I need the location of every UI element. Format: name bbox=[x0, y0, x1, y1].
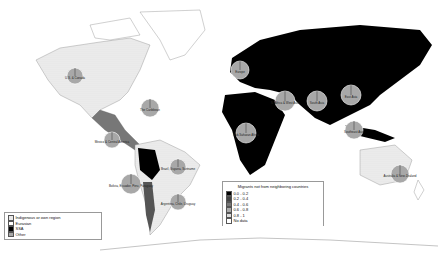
pie-label: Australia & New Zealand bbox=[383, 175, 416, 178]
legend-item: No data bbox=[226, 218, 320, 224]
legend-composition: Indigenous or own region Eurasian SSA Ot… bbox=[4, 212, 102, 240]
pie-label: N. Africa & West Asia bbox=[271, 102, 299, 105]
legend-item: Other bbox=[8, 232, 98, 238]
pie-label: Southeast Asia bbox=[344, 131, 364, 134]
pie-label: Sub-Saharan Africa bbox=[233, 134, 259, 137]
pie-label: The Caribbean bbox=[140, 109, 160, 112]
pie-label: Europe bbox=[235, 71, 245, 74]
pie-label: South Asia bbox=[310, 102, 324, 105]
legend-title: Migrants not from neighboring countries bbox=[226, 184, 320, 190]
pie-label: U.S. & Canada bbox=[65, 77, 85, 80]
pie-label: Bolivia, Ecuador, Peru, Paraguay bbox=[109, 185, 153, 188]
pie-label: Mexico & Central America bbox=[95, 141, 130, 144]
pie-label: East Asia bbox=[345, 96, 358, 99]
legend-migrants: Migrants not from neighboring countries … bbox=[222, 181, 324, 226]
pie-label: Argentina, Chile, Uruguay bbox=[161, 203, 195, 206]
pie-label: Brazil, Guyana, Suriname bbox=[161, 168, 195, 171]
